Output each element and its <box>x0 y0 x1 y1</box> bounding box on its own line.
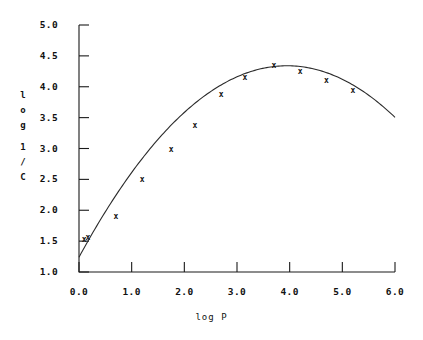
y-axis-tick-label: 3.5 <box>28 112 58 123</box>
y-axis-tick-label: 4.0 <box>28 81 58 92</box>
y-axis-tick-label: 5.0 <box>28 19 58 30</box>
data-point-marker: x <box>169 145 174 154</box>
x-axis-tick-label: 2.0 <box>169 286 199 297</box>
axis-lines <box>79 25 395 272</box>
data-point-marker: x <box>192 121 197 130</box>
data-point-marker: x <box>350 86 355 95</box>
data-point-marker: x <box>271 61 276 70</box>
data-point-marker: x <box>140 175 145 184</box>
y-axis-tick-label: 2.5 <box>28 173 58 184</box>
y-axis-tick-label: 1.5 <box>28 235 58 246</box>
x-axis-tick-label: 4.0 <box>275 286 305 297</box>
data-point-markers: xxxxxxxxxxxx <box>82 61 356 244</box>
x-axis-tick-label: 1.0 <box>117 286 147 297</box>
data-point-marker: x <box>324 76 329 85</box>
y-axis-tick-label: 3.0 <box>28 143 58 154</box>
data-point-marker: x <box>219 90 224 99</box>
x-axis-tick-label: 0.0 <box>64 286 94 297</box>
axes-group <box>79 25 395 272</box>
y-axis-title-char-5: / <box>14 155 32 170</box>
data-point-marker: x <box>242 73 247 82</box>
y-axis-tick-label: 2.0 <box>28 204 58 215</box>
fit-curve <box>79 66 395 257</box>
y-axis-tick-label: 1.0 <box>28 266 58 277</box>
x-axis-ticks <box>79 262 395 272</box>
x-axis-tick-label: 6.0 <box>380 286 410 297</box>
chart-figure: l o g 1 / C 1.01.52.02.53.03.54.04.55.0 … <box>0 0 423 340</box>
data-point-marker: x <box>298 67 303 76</box>
x-axis-tick-label: 3.0 <box>222 286 252 297</box>
y-axis-tick-label: 4.5 <box>28 50 58 61</box>
y-axis-title: l o g 1 / C <box>14 88 32 185</box>
data-point-marker: x <box>113 212 118 221</box>
x-axis-tick-label: 5.0 <box>327 286 357 297</box>
y-axis-title-spacer <box>14 133 32 140</box>
data-point-marker: x <box>86 233 91 242</box>
x-axis-title: log P <box>0 312 423 322</box>
